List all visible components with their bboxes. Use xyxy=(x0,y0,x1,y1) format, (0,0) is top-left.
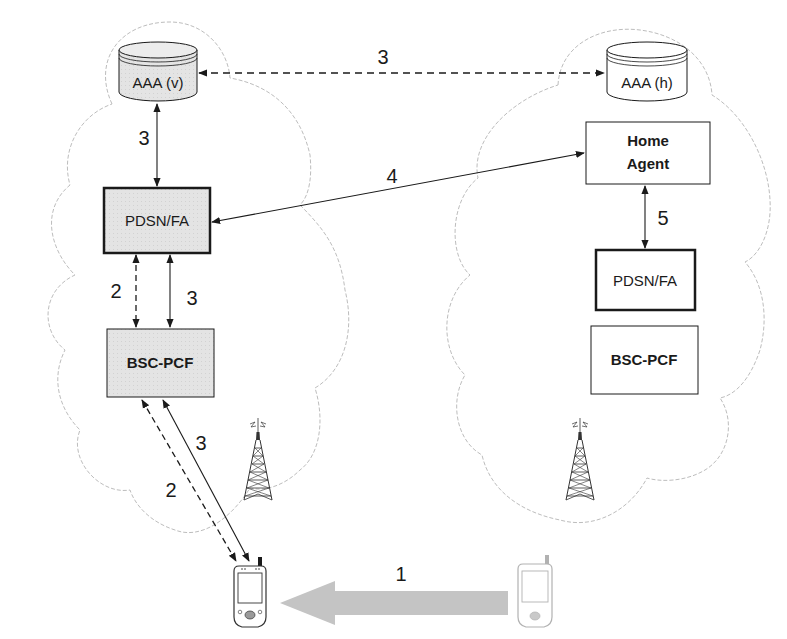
pdsn-fa-home-node: PDSN/FA xyxy=(596,250,695,310)
bsc-pcf-home-label: BSC-PCF xyxy=(611,351,678,368)
edge-label-aaa-pdsn: 3 xyxy=(138,127,149,149)
visited-network-cloud xyxy=(48,22,349,533)
edge-label-ha-pdsn: 5 xyxy=(657,207,668,229)
pdsn-fa-visited-node: PDSN/FA xyxy=(104,188,210,253)
edge-bsc-v-mobile-dashed xyxy=(142,400,236,561)
bsc-pcf-visited-label: BSC-PCF xyxy=(127,354,194,371)
movement-arrow: 1 xyxy=(280,563,508,625)
radio-tower-visited-icon xyxy=(244,418,272,500)
pda-device-old-icon xyxy=(518,555,552,627)
edge-label-bsc-mobile-dashed: 2 xyxy=(165,479,176,501)
bsc-pcf-home-node: BSC-PCF xyxy=(591,326,698,394)
edge-label-pdsn-bsc-dashed: 2 xyxy=(110,280,121,302)
movement-label: 1 xyxy=(395,563,406,585)
bsc-pcf-visited-node: BSC-PCF xyxy=(107,329,214,397)
aaa-visited-database: AAA (v) xyxy=(119,42,197,101)
pda-device-new-icon xyxy=(234,557,266,627)
edge-label-bsc-mobile-solid: 3 xyxy=(195,432,206,454)
network-diagram: AAA (v) AAA (h) PDSN/FA BSC-PCF Home Age… xyxy=(0,0,787,639)
edge-label-aaa: 3 xyxy=(377,46,388,68)
aaa-home-database: AAA (h) xyxy=(607,42,687,101)
pdsn-fa-home-label: PDSN/FA xyxy=(613,272,677,289)
home-agent-label-line2: Agent xyxy=(627,155,670,172)
aaa-home-label: AAA (h) xyxy=(621,74,673,91)
home-agent-label-line1: Home xyxy=(627,132,669,149)
aaa-visited-label: AAA (v) xyxy=(133,74,184,91)
radio-tower-home-icon xyxy=(566,418,594,500)
edge-label-pdsn-ha: 4 xyxy=(386,165,397,187)
edge-label-pdsn-bsc-solid: 3 xyxy=(186,287,197,309)
home-agent-node: Home Agent xyxy=(586,122,710,184)
edge-pdsn-v-home-agent xyxy=(212,153,584,222)
pdsn-fa-visited-label: PDSN/FA xyxy=(125,212,189,229)
